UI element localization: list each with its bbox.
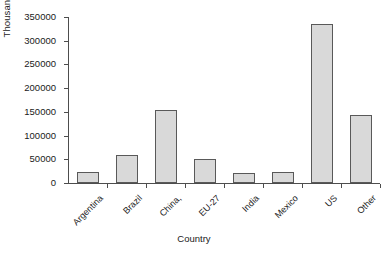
y-tick-mark <box>64 183 68 184</box>
y-tick-mark <box>64 64 68 65</box>
y-tick-label: 200000 <box>0 83 56 93</box>
x-axis-title: Country <box>0 233 388 244</box>
x-tick-mark <box>107 184 108 188</box>
bar-chart-figure: Thousand tonnes 050000100000150000200000… <box>0 0 388 260</box>
y-tick-label: 300000 <box>0 36 56 46</box>
bar <box>311 24 333 183</box>
x-tick-mark <box>224 184 225 188</box>
bar <box>155 110 177 183</box>
y-tick-label: 100000 <box>0 131 56 141</box>
x-tick-mark <box>263 184 264 188</box>
x-tick-mark <box>341 184 342 188</box>
bar <box>233 173 255 183</box>
x-tick-mark <box>146 184 147 188</box>
y-tick-mark <box>64 88 68 89</box>
bar <box>77 172 99 183</box>
y-tick-mark <box>64 159 68 160</box>
x-tick-mark <box>302 184 303 188</box>
y-tick-label: 50000 <box>0 154 56 164</box>
y-tick-label: 0 <box>0 178 56 188</box>
bar <box>116 155 138 183</box>
y-axis-line <box>68 17 69 184</box>
bar <box>194 159 216 183</box>
y-axis-title: Thousand tonnes <box>1 0 15 60</box>
y-tick-mark <box>64 17 68 18</box>
y-tick-label: 350000 <box>0 12 56 22</box>
x-tick-mark <box>380 184 381 188</box>
x-tick-mark <box>185 184 186 188</box>
y-tick-mark <box>64 112 68 113</box>
bar <box>272 172 294 183</box>
y-tick-label: 150000 <box>0 107 56 117</box>
y-tick-label: 250000 <box>0 59 56 69</box>
bar <box>350 115 372 183</box>
plot-area: 0500001000001500002000002500003000003500… <box>68 17 380 183</box>
y-tick-mark <box>64 136 68 137</box>
y-tick-mark <box>64 41 68 42</box>
